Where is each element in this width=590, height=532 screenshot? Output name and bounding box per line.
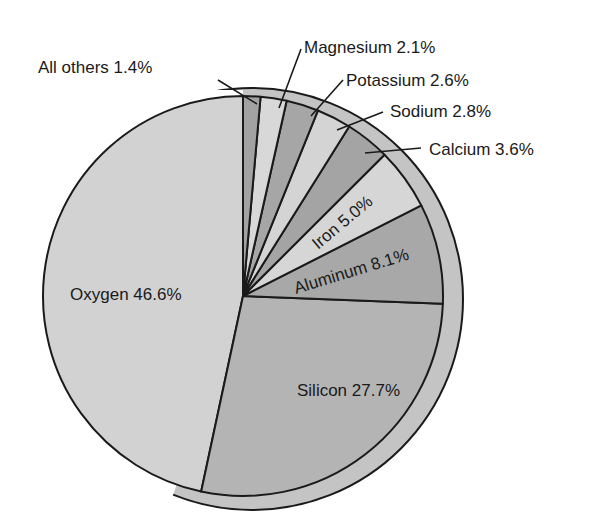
label-silicon: Silicon 27.7% xyxy=(297,381,400,400)
label-all-others: All others 1.4% xyxy=(38,58,152,77)
label-magnesium: Magnesium 2.1% xyxy=(304,38,435,57)
label-potassium: Potassium 2.6% xyxy=(346,71,469,90)
label-oxygen: Oxygen 46.6% xyxy=(70,285,182,304)
label-sodium: Sodium 2.8% xyxy=(390,102,491,121)
label-calcium: Calcium 3.6% xyxy=(429,140,534,159)
pie-chart: Oxygen 46.6%Silicon 27.7%Aluminum 8.1%Ir… xyxy=(0,0,590,532)
